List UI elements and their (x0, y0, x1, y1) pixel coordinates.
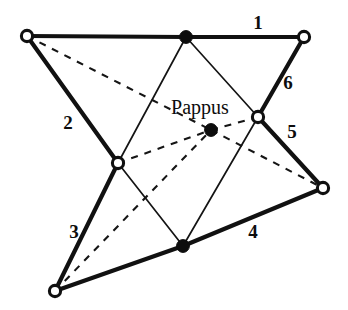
thick-lines-group (27, 36, 323, 291)
thick-edge-ab (27, 36, 186, 37)
vertex-open-d (252, 111, 263, 122)
edge-label-4: 4 (248, 222, 258, 241)
vertex-filled-b (180, 31, 193, 44)
vertex-open-h (112, 157, 123, 168)
edge-label-1: 1 (253, 13, 263, 32)
vertex-open-e (317, 182, 328, 193)
edge-label-6: 6 (283, 73, 293, 92)
thick-edge-cd (258, 37, 304, 117)
vertex-open-a (21, 30, 32, 41)
dashed-lines-group (27, 36, 323, 291)
dashed-line-gp (55, 130, 211, 291)
thin-line-df (183, 117, 258, 246)
edge-label-5: 5 (287, 122, 297, 141)
pappus-diagram-canvas (0, 0, 348, 310)
vertex-filled-f (177, 240, 190, 253)
thick-edge-ah (27, 36, 118, 163)
thin-line-hf (118, 163, 183, 246)
edge-label-3: 3 (69, 222, 79, 241)
vertex-open-g (49, 285, 60, 296)
pappus-point-label: Pappus (171, 97, 229, 117)
vertex-filled-p (205, 124, 218, 137)
edge-label-2: 2 (63, 113, 73, 132)
thin-lines-group (118, 37, 258, 246)
dashed-line-pe (211, 130, 323, 188)
vertex-open-c (298, 31, 309, 42)
pappus-diagram-figure: Pappus 123456 (0, 0, 348, 310)
dashed-line-hp (118, 130, 211, 163)
